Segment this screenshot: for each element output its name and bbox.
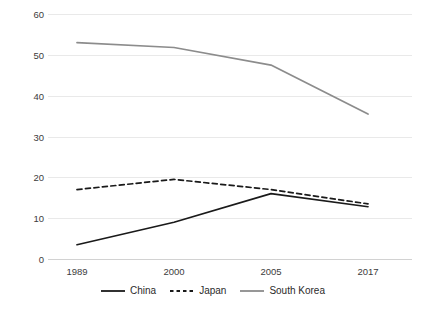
legend-swatch-south-korea — [240, 286, 264, 296]
series-line-south-korea — [77, 43, 368, 114]
legend-label-china: China — [130, 286, 156, 296]
legend-item-china: China — [101, 286, 156, 296]
legend-label-japan: Japan — [199, 286, 226, 296]
legend-label-south-korea: South Korea — [269, 286, 325, 296]
legend-item-japan: Japan — [170, 286, 226, 296]
legend-swatch-china — [101, 286, 125, 296]
legend-swatch-japan — [170, 286, 194, 296]
plot-area: 60 50 40 30 20 10 0 1989 2000 2005 2017 — [0, 0, 426, 311]
legend-item-south-korea: South Korea — [240, 286, 325, 296]
series-layer — [0, 0, 426, 311]
line-chart: 60 50 40 30 20 10 0 1989 2000 2005 2017 … — [0, 0, 426, 311]
series-line-china — [77, 194, 368, 245]
chart-legend: China Japan South Korea — [0, 286, 426, 296]
